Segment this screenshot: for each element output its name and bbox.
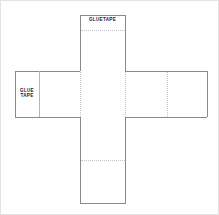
outline-band-top-right bbox=[125, 71, 207, 72]
outline-bottom-edge bbox=[80, 203, 126, 204]
fold-line-center-right bbox=[125, 72, 126, 117]
cube-net-template-page: GLUETAPE GLUE TAPE bbox=[0, 0, 219, 215]
fold-line-left-tab bbox=[39, 71, 40, 117]
fold-line-right-panel bbox=[167, 72, 168, 117]
outline-top-edge bbox=[80, 15, 125, 16]
outline-band-bottom-right bbox=[125, 117, 207, 118]
fold-line-center-left bbox=[80, 72, 81, 117]
fold-line-top-tab bbox=[81, 30, 125, 31]
outline-band-top-left bbox=[15, 71, 80, 72]
glue-tape-label-left: GLUE TAPE bbox=[15, 89, 39, 99]
outline-vertical-right-upper bbox=[125, 15, 126, 71]
outline-band-bottom-left bbox=[15, 117, 80, 118]
outline-band-right-edge bbox=[207, 71, 208, 117]
fold-line-bottom-panel bbox=[81, 160, 125, 161]
outline-vertical-right-lower bbox=[125, 117, 126, 203]
glue-tape-label-top: GLUETAPE bbox=[80, 18, 125, 23]
outline-vertical-left-upper bbox=[80, 15, 81, 71]
